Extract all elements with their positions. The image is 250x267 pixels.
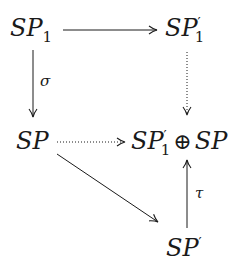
node-sum-left-base: SP	[131, 127, 164, 155]
node-sp1-sub: 1	[43, 28, 53, 46]
oplus-operator: ⊕	[173, 129, 191, 154]
node-spprime-prime: ′	[199, 235, 202, 251]
node-sp1-prime: SP′1	[165, 16, 204, 45]
arrow-sp-to-spprime	[57, 154, 158, 222]
node-sp1-base: SP	[10, 14, 43, 42]
node-spprime-base: SP	[166, 234, 199, 262]
node-sum: SP′1⊕SP	[131, 129, 227, 158]
node-sp1prime-sub: 1	[195, 28, 205, 46]
node-sp: SP	[16, 129, 49, 153]
node-sp1prime-base: SP	[165, 14, 198, 42]
label-tau: τ	[195, 186, 203, 201]
node-sum-sub: 1	[161, 141, 171, 159]
node-sp-base: SP	[16, 127, 49, 155]
node-sp-prime: SP′	[166, 236, 202, 260]
label-sigma: σ	[40, 74, 50, 89]
node-sp1: SP1	[10, 16, 52, 45]
node-sum-right-base: SP	[195, 127, 228, 155]
